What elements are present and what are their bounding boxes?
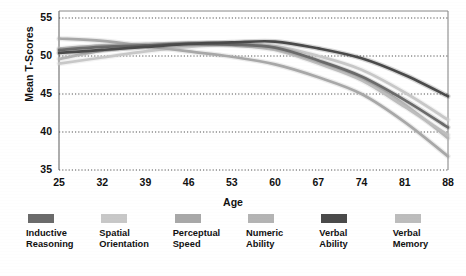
legend-label: Spatial Orientation [99, 228, 149, 251]
chart-legend: Inductive ReasoningSpatial OrientationPe… [0, 214, 466, 276]
legend-item[interactable]: Perceptual Speed [173, 214, 246, 276]
line-chart-figure: Mean T-Scores Age 3540455055 25323946536… [0, 0, 466, 276]
x-tick-label-32: 32 [87, 176, 117, 188]
x-tick-label-60: 60 [260, 176, 290, 188]
x-tick-label-39: 39 [130, 176, 160, 188]
legend-label: Perceptual Speed [173, 228, 221, 251]
y-axis-title: Mean T-Scores [23, 9, 35, 119]
y-tick-label-55: 55 [26, 11, 52, 23]
legend-label: Verbal Memory [393, 228, 429, 251]
x-tick-label-46: 46 [174, 176, 204, 188]
legend-swatch [175, 214, 201, 223]
x-tick-label-88: 88 [433, 176, 463, 188]
legend-swatch [101, 214, 127, 223]
legend-swatch [395, 214, 421, 223]
y-tick-label-50: 50 [26, 49, 52, 61]
x-tick-label-74: 74 [347, 176, 377, 188]
y-tick-label-45: 45 [26, 87, 52, 99]
legend-label: Numeric Ability [246, 228, 283, 251]
x-tick-label-25: 25 [44, 176, 74, 188]
legend-label: Verbal Ability [319, 228, 347, 251]
x-tick-label-81: 81 [390, 176, 420, 188]
legend-swatch [321, 214, 347, 223]
x-tick-label-67: 67 [303, 176, 333, 188]
legend-item[interactable]: Spatial Orientation [99, 214, 172, 276]
legend-item[interactable]: Verbal Memory [393, 214, 466, 276]
legend-swatch [28, 214, 54, 223]
y-tick-label-35: 35 [26, 163, 52, 175]
chart-plot-area: Mean T-Scores Age 3540455055 25323946536… [0, 0, 466, 212]
legend-swatch [248, 214, 274, 223]
x-tick-label-53: 53 [217, 176, 247, 188]
y-tick-label-40: 40 [26, 125, 52, 137]
x-axis-title: Age [0, 196, 466, 208]
legend-item[interactable]: Verbal Ability [319, 214, 392, 276]
legend-item[interactable]: Inductive Reasoning [26, 214, 99, 276]
legend-label: Inductive Reasoning [26, 228, 74, 251]
legend-item[interactable]: Numeric Ability [246, 214, 319, 276]
